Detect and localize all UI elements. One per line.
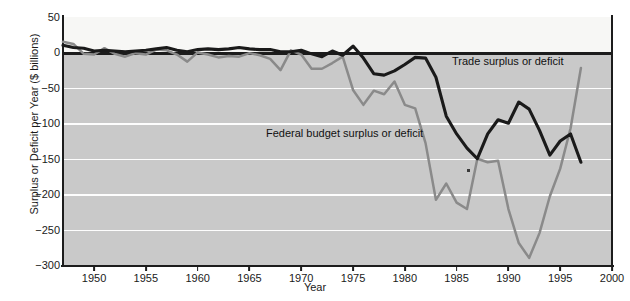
x-tick-mark bbox=[508, 265, 510, 271]
x-tick-mark bbox=[559, 265, 561, 271]
x-tick-mark bbox=[300, 265, 302, 271]
annotation-budget: Federal budget surplus or deficit bbox=[266, 127, 423, 139]
print-speck bbox=[467, 169, 470, 172]
x-tick-mark bbox=[145, 265, 147, 271]
y-tick-label: −300 bbox=[35, 260, 60, 271]
y-tick-label: −50 bbox=[41, 82, 60, 93]
y-tick-label: 50 bbox=[48, 12, 60, 23]
figure-container: Surplus or Deficit per Year ($ billions)… bbox=[0, 0, 630, 301]
y-tick-label: −200 bbox=[35, 189, 60, 200]
x-tick-mark bbox=[93, 265, 95, 271]
x-tick-mark bbox=[456, 265, 458, 271]
annotation-trade: Trade surplus or deficit bbox=[452, 55, 563, 67]
x-tick-mark bbox=[611, 265, 613, 271]
y-tick-label: −100 bbox=[35, 118, 60, 129]
x-tick-mark bbox=[352, 265, 354, 271]
x-tick-mark bbox=[249, 265, 251, 271]
x-axis-title: Year bbox=[0, 281, 630, 293]
x-tick-mark bbox=[197, 265, 199, 271]
y-tick-label: −150 bbox=[35, 153, 60, 164]
y-tick-label: −250 bbox=[35, 224, 60, 235]
x-tick-mark bbox=[404, 265, 406, 271]
y-tick-label: 0 bbox=[54, 47, 60, 58]
budget-series-line bbox=[63, 42, 581, 258]
bottom-axis-line bbox=[61, 265, 614, 267]
